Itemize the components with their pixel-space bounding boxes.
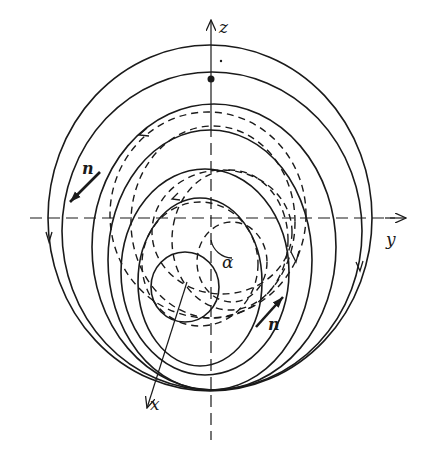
solid-circle-2 — [62, 72, 362, 390]
small-dot — [220, 60, 222, 62]
y-axis-label: y — [385, 229, 396, 249]
large-dot — [208, 76, 215, 83]
arrowhead-inner-dashed — [172, 193, 180, 200]
x-axis-label: x — [150, 394, 160, 414]
arrowhead-right-dashed — [291, 251, 299, 262]
dashed-circle-1 — [110, 112, 306, 318]
labels: z y x n n α — [82, 17, 396, 414]
circle-direction-arrows — [46, 128, 363, 271]
z-axis-label: z — [218, 17, 229, 37]
normal-left-label: n — [82, 159, 94, 178]
solid-circle-5 — [121, 169, 289, 375]
dashed-circle-4 — [172, 170, 288, 310]
normal-right-label: n — [268, 315, 280, 334]
axes — [30, 20, 406, 440]
angle-label: α — [222, 252, 234, 272]
circle-family-diagram: z y x n n α — [0, 0, 428, 457]
points — [208, 60, 223, 83]
